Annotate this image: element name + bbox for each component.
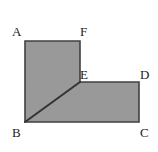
vertex-label-a: A bbox=[12, 25, 21, 38]
figure-canvas bbox=[0, 0, 158, 152]
vertex-label-b: B bbox=[12, 126, 21, 139]
vertex-label-e: E bbox=[80, 68, 88, 81]
geometry-figure: A F E D C B bbox=[0, 0, 158, 152]
vertex-label-c: C bbox=[140, 126, 149, 139]
vertex-label-d: D bbox=[140, 68, 149, 81]
vertex-label-f: F bbox=[80, 25, 87, 38]
